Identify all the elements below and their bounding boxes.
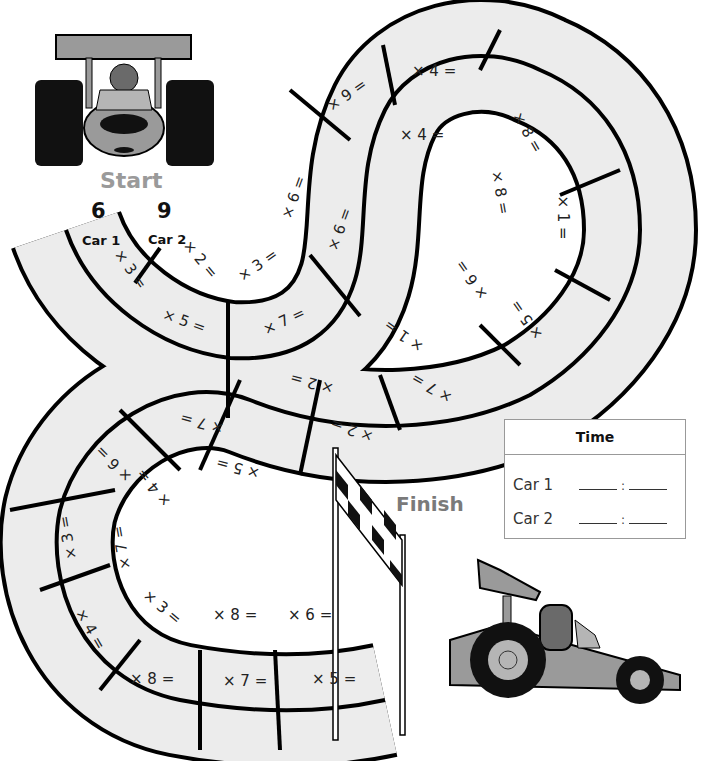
minutes-blank[interactable] (579, 477, 617, 490)
track-cell-outer-8[interactable]: × 1 = (555, 195, 570, 239)
seconds-blank[interactable] (629, 477, 667, 490)
track-cell-inner-13[interactable]: × 8 = (213, 608, 257, 623)
start-car-illustration (35, 35, 214, 166)
track-cell-outer-18[interactable]: × 5 = (312, 672, 356, 687)
game-board (0, 0, 718, 761)
finish-car-illustration (450, 560, 680, 704)
seconds-blank[interactable] (629, 511, 667, 524)
car2-lane-tag: Car 2 (148, 232, 186, 247)
track-cell-outer-17[interactable]: × 7 = (223, 674, 267, 689)
car1-start-number: 6 (91, 199, 106, 223)
track-cell-inner-4[interactable]: × 4 = (400, 128, 444, 143)
time-row-car2: Car 2 : (513, 510, 671, 528)
finish-label: Finish (396, 492, 464, 516)
time-box-header: Time (505, 420, 685, 455)
time-row-label: Car 2 (513, 510, 575, 528)
track-cell-inner-14[interactable]: × 6 = (288, 608, 332, 623)
start-label: Start (100, 168, 163, 193)
time-row-label: Car 1 (513, 476, 575, 494)
track-cell-outer-16[interactable]: × 8 = (130, 672, 174, 687)
car2-start-number: 9 (157, 199, 172, 223)
time-row-car1: Car 1 : (513, 476, 671, 494)
time-record-box: Time Car 1 : Car 2 : (504, 419, 686, 539)
track-cell-outer-6[interactable]: × 4 = (412, 64, 456, 79)
car1-lane-tag: Car 1 (82, 233, 120, 248)
minutes-blank[interactable] (579, 511, 617, 524)
